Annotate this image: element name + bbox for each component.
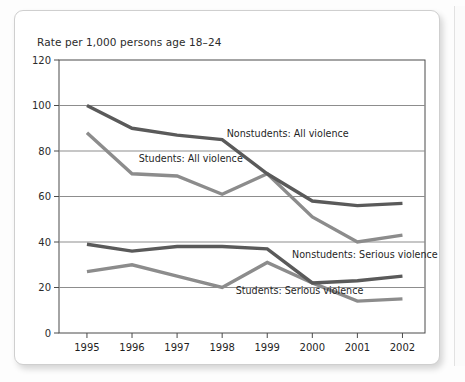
x-tick-label: 1996 xyxy=(119,342,144,353)
series-line xyxy=(87,106,403,206)
chart-plot-area: 0204060801001201995199619971998199920002… xyxy=(15,11,439,364)
x-tick-label: 1998 xyxy=(209,342,234,353)
x-tick-label: 1999 xyxy=(255,342,280,353)
x-tick-label: 1995 xyxy=(74,342,99,353)
series-annotation-label: Students: All violence xyxy=(139,153,243,164)
x-tick-label: 2001 xyxy=(345,342,370,353)
x-tick-label: 1997 xyxy=(164,342,189,353)
y-tick-label: 60 xyxy=(38,191,51,202)
x-tick-label: 2002 xyxy=(390,342,415,353)
page-edge-sliver xyxy=(454,6,465,366)
series-annotation-label: Students: Serious violence xyxy=(236,285,364,296)
y-tick-label: 100 xyxy=(32,100,51,111)
figure-page: Rate per 1,000 persons age 18–24 0204060… xyxy=(0,0,465,382)
x-tick-label: 2000 xyxy=(300,342,325,353)
y-tick-label: 0 xyxy=(45,328,51,339)
series-annotation-label: Nonstudents: Serious violence xyxy=(292,249,438,260)
series-annotation-label: Nonstudents: All violence xyxy=(227,128,349,139)
figure-card: Rate per 1,000 persons age 18–24 0204060… xyxy=(14,10,440,365)
y-tick-label: 80 xyxy=(38,146,51,157)
y-tick-label: 20 xyxy=(38,282,51,293)
y-tick-label: 120 xyxy=(32,55,51,66)
series-line xyxy=(87,133,403,242)
y-tick-label: 40 xyxy=(38,237,51,248)
line-chart: 0204060801001201995199619971998199920002… xyxy=(15,11,439,364)
